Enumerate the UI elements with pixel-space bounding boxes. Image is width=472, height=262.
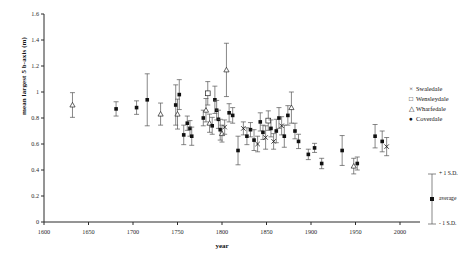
marker-coverdale (373, 134, 377, 138)
legend-item-wensleydale: □ Wensleydale (406, 94, 472, 104)
legend-label: Wharfedale (416, 104, 446, 114)
y-tick-label: 0.6 (31, 140, 39, 147)
marker-coverdale (177, 93, 181, 97)
legend-label: Wensleydale (416, 94, 449, 104)
y-tick-label: 1.2 (31, 62, 39, 69)
marker-coverdale (274, 129, 278, 133)
marker-coverdale (210, 124, 214, 128)
marker-coverdale (227, 111, 231, 115)
marker-coverdale (231, 114, 235, 118)
open-square-marker-icon: □ (406, 94, 416, 104)
marker-coverdale (297, 140, 301, 144)
marker-coverdale (135, 106, 139, 110)
marker-coverdale (236, 149, 240, 153)
marker-coverdale (185, 121, 189, 125)
x-tick-label: 1600 (38, 228, 50, 235)
marker-coverdale (245, 134, 249, 138)
marker-coverdale (293, 129, 297, 133)
marker-coverdale (182, 133, 186, 137)
x-tick-label: 1750 (171, 228, 183, 235)
x-axis-title: year (215, 242, 228, 250)
marker-coverdale (313, 146, 317, 150)
open-triangle-marker-icon: △ (406, 104, 416, 114)
marker-coverdale (283, 134, 287, 138)
marker-coverdale (258, 120, 262, 124)
marker-coverdale (190, 134, 194, 138)
marker-coverdale (174, 103, 178, 107)
cross-marker-icon: × (406, 84, 416, 94)
series-legend: × Swaledale □ Wensleydale △ Wharfedale ●… (406, 84, 472, 124)
y-tick-label: 0 (36, 218, 39, 225)
marker-coverdale (380, 140, 384, 144)
x-tick-label: 1850 (260, 228, 272, 235)
marker-coverdale (261, 131, 265, 135)
marker-coverdale (269, 127, 273, 131)
x-tick-label: 1950 (349, 228, 361, 235)
marker-coverdale (252, 138, 256, 142)
marker-wensleydale (266, 118, 271, 123)
marker-wharfedale (70, 102, 75, 107)
error-bar-legend: + 1 S.D. average - 1 S.D. (424, 168, 472, 230)
marker-coverdale (286, 114, 290, 118)
marker-coverdale (320, 162, 324, 166)
sd-mid-label: average (439, 195, 456, 201)
legend-item-swaledale: × Swaledale (406, 84, 472, 94)
marker-coverdale (202, 116, 206, 120)
legend-label: Swaledale (416, 84, 442, 94)
x-tick-label: 2000 (394, 228, 406, 235)
sd-top-label: + 1 S.D. (439, 170, 458, 176)
marker-coverdale (114, 107, 118, 111)
x-tick-label: 1900 (305, 228, 317, 235)
y-axis-title: mean largest 5 b-axis (m) (20, 6, 28, 146)
sd-bottom-label: - 1 S.D. (439, 220, 456, 226)
marker-wensleydale (205, 91, 210, 96)
y-tick-label: 0.8 (31, 114, 39, 121)
marker-wharfedale (158, 112, 163, 117)
x-tick-label: 1700 (127, 228, 139, 235)
marker-wharfedale (224, 67, 229, 72)
marker-coverdale (213, 98, 217, 102)
y-tick-label: 0.4 (31, 166, 39, 173)
y-tick-label: 1.4 (31, 36, 39, 43)
marker-coverdale (307, 153, 311, 157)
filled-circle-marker-icon: ● (406, 114, 416, 124)
chart-root: 00.20.40.60.811.21.41.616001650170017501… (0, 0, 472, 262)
y-tick-label: 1 (36, 88, 39, 95)
marker-coverdale (218, 128, 222, 132)
legend-label: Coverdale (416, 114, 442, 124)
legend-item-wharfedale: △ Wharfedale (406, 104, 472, 114)
marker-coverdale (145, 98, 149, 102)
x-tick-label: 1800 (216, 228, 228, 235)
legend-item-coverdale: ● Coverdale (406, 114, 472, 124)
plot-canvas: 00.20.40.60.811.21.41.616001650170017501… (0, 0, 472, 262)
y-tick-label: 0.2 (31, 192, 39, 199)
marker-coverdale (340, 149, 344, 153)
scatter-plot: 00.20.40.60.811.21.41.616001650170017501… (0, 0, 472, 262)
x-tick-label: 1650 (82, 228, 94, 235)
data-series-group (70, 43, 389, 174)
marker-coverdale (355, 162, 359, 166)
y-tick-label: 1.6 (31, 10, 39, 17)
